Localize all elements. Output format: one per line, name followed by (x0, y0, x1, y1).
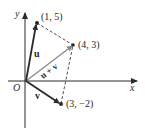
vector-label-u: u (34, 48, 40, 59)
vector-label-u-plus-v: u + v (38, 61, 60, 81)
point-1-5 (35, 21, 39, 25)
point-4-3 (71, 43, 75, 47)
origin-label: O (13, 82, 20, 93)
point-label-3-neg2: (3, −2) (66, 98, 93, 110)
vector-diagram: y x O (1, 5) (4, 3) (3, −2) u v u + v (0, 0, 145, 135)
dashed-edge-p3-p2 (61, 45, 73, 104)
point-label-1-5: (1, 5) (41, 11, 63, 23)
y-axis-label: y (14, 8, 20, 19)
dashed-edge-p1-p2 (37, 23, 73, 45)
vector-v (26, 81, 59, 103)
point-3-neg2 (59, 102, 63, 106)
point-label-4-3: (4, 3) (78, 39, 100, 51)
vector-label-v: v (35, 90, 40, 101)
x-axis-label: x (129, 82, 135, 93)
